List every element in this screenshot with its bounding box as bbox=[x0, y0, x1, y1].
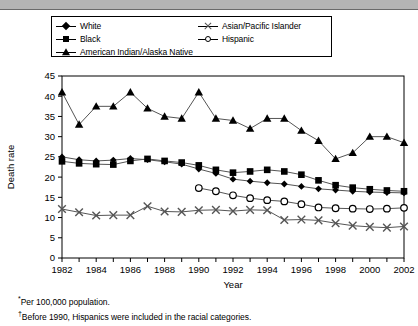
data-point-triangle bbox=[195, 88, 203, 95]
black-marker-icon bbox=[56, 34, 76, 45]
data-point-square bbox=[178, 159, 185, 166]
data-point-triangle bbox=[246, 124, 254, 131]
x-tick-label: 1990 bbox=[188, 264, 209, 275]
y-tick-label: 15 bbox=[44, 192, 55, 203]
data-point-diamond bbox=[264, 179, 271, 186]
data-point-square bbox=[93, 161, 100, 168]
data-point-square bbox=[213, 167, 220, 174]
data-point-triangle bbox=[109, 102, 117, 109]
y-tick-label: 20 bbox=[44, 172, 55, 183]
data-point-circle bbox=[247, 195, 254, 202]
legend-column-right: Asian/Pacific Islander Hispanic bbox=[198, 20, 301, 46]
triangle-marker-icon bbox=[56, 47, 76, 58]
data-point-diamond bbox=[247, 178, 254, 185]
x-axis-title: Year bbox=[223, 279, 242, 290]
data-point-triangle bbox=[400, 139, 408, 146]
data-point-circle bbox=[213, 188, 220, 195]
legend-item-black: Black bbox=[56, 33, 193, 45]
x-tick-label: 1992 bbox=[222, 264, 243, 275]
white-marker-icon bbox=[56, 21, 76, 32]
legend-item-label: Hispanic bbox=[222, 34, 254, 45]
data-point-circle bbox=[401, 205, 408, 212]
data-point-circle bbox=[264, 197, 271, 204]
data-point-triangle bbox=[126, 88, 134, 95]
data-point-square bbox=[298, 171, 305, 178]
data-point-square bbox=[59, 158, 66, 165]
data-point-square bbox=[315, 177, 322, 184]
footnote-2: †Before 1990, Hispanics were included in… bbox=[18, 308, 408, 323]
data-point-square bbox=[401, 188, 408, 195]
legend-item-label: American Indian/Alaska Native bbox=[80, 47, 193, 58]
legend-item-label: White bbox=[80, 21, 101, 32]
x-tick-label: 1994 bbox=[257, 264, 278, 275]
footnote-2-text: Before 1990, Hispanics were included in … bbox=[22, 312, 251, 322]
data-point-triangle bbox=[160, 112, 168, 119]
data-point-circle bbox=[298, 201, 305, 208]
data-point-diamond bbox=[230, 176, 237, 183]
data-point-square bbox=[230, 169, 237, 176]
data-point-triangle bbox=[297, 126, 305, 133]
data-point-square bbox=[127, 158, 134, 165]
series-black bbox=[59, 156, 408, 195]
data-point-square bbox=[264, 167, 271, 174]
data-point-x bbox=[144, 202, 152, 210]
x-tick-label: 1988 bbox=[154, 264, 175, 275]
data-point-circle bbox=[367, 206, 374, 213]
y-tick-label: 0 bbox=[50, 252, 55, 263]
data-point-square bbox=[247, 168, 254, 175]
data-point-diamond bbox=[315, 185, 322, 192]
legend-item-label: Asian/Pacific Islander bbox=[222, 21, 301, 32]
y-axis-title: Death rate bbox=[5, 145, 16, 189]
data-point-square bbox=[144, 156, 151, 163]
chart-plot-area: 051015202530354045Death rate198219841986… bbox=[0, 60, 418, 290]
data-point-diamond bbox=[298, 183, 305, 190]
data-point-square bbox=[332, 182, 339, 189]
legend-item-label: Black bbox=[80, 34, 100, 45]
y-tick-label: 5 bbox=[50, 232, 55, 243]
x-marker-icon bbox=[198, 21, 218, 32]
series-american-indian-alaska-native bbox=[58, 88, 408, 162]
y-tick-label: 45 bbox=[44, 70, 55, 81]
x-tick-label: 2002 bbox=[393, 264, 414, 275]
y-tick-label: 10 bbox=[44, 212, 55, 223]
legend-column-left: White Black American Indian/Alaska Nativ… bbox=[56, 20, 193, 59]
y-tick-label: 25 bbox=[44, 151, 55, 162]
data-point-triangle bbox=[58, 88, 66, 95]
data-point-circle bbox=[281, 198, 288, 205]
legend-item-asian-pacific-islander: Asian/Pacific Islander bbox=[198, 20, 301, 32]
data-point-circle bbox=[349, 205, 356, 212]
y-tick-label: 35 bbox=[44, 111, 55, 122]
data-point-square bbox=[196, 162, 203, 169]
legend-item-white: White bbox=[56, 20, 193, 32]
data-point-circle bbox=[384, 205, 391, 212]
chart-legend: White Black American Indian/Alaska Nativ… bbox=[51, 16, 332, 57]
data-point-triangle bbox=[92, 102, 100, 109]
data-point-circle bbox=[230, 192, 237, 199]
data-point-square bbox=[281, 168, 288, 175]
data-point-triangle bbox=[212, 114, 220, 121]
data-point-square bbox=[384, 187, 391, 194]
circle-marker-icon bbox=[198, 34, 218, 45]
data-point-square bbox=[349, 184, 356, 191]
data-point-circle bbox=[315, 204, 322, 211]
data-point-square bbox=[76, 160, 83, 167]
x-tick-label: 1986 bbox=[120, 264, 141, 275]
data-point-square bbox=[367, 186, 374, 193]
legend-item-american-indian-alaska-native: American Indian/Alaska Native bbox=[56, 46, 193, 58]
death-rate-line-chart: 051015202530354045Death rate198219841986… bbox=[0, 60, 418, 290]
window-titlebar bbox=[0, 0, 418, 10]
data-point-circle bbox=[332, 205, 339, 212]
data-point-square bbox=[110, 161, 117, 168]
x-tick-label: 1984 bbox=[86, 264, 107, 275]
legend-item-hispanic: Hispanic bbox=[198, 33, 301, 45]
data-point-triangle bbox=[314, 137, 322, 144]
data-point-square bbox=[161, 158, 168, 165]
chart-footnotes: *Per 100,000 population. †Before 1990, H… bbox=[18, 293, 408, 324]
x-tick-label: 1982 bbox=[51, 264, 72, 275]
y-tick-label: 40 bbox=[44, 91, 55, 102]
y-tick-label: 30 bbox=[44, 131, 55, 142]
x-tick-label: 2000 bbox=[359, 264, 380, 275]
x-tick-label: 1996 bbox=[291, 264, 312, 275]
data-point-circle bbox=[196, 185, 203, 192]
footnote-1-text: Per 100,000 population. bbox=[21, 297, 110, 307]
